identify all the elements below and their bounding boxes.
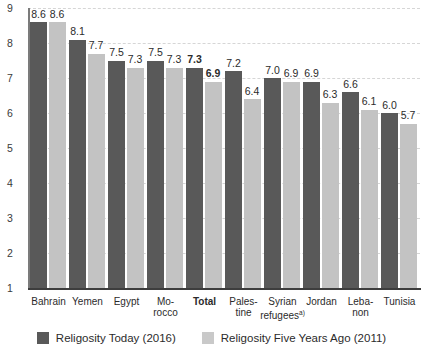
- bar-value-label: 6.4: [245, 86, 260, 97]
- bar-group: 6.96.3: [302, 8, 341, 288]
- bar-past: [244, 99, 261, 288]
- y-axis-tick-label: 4: [0, 178, 20, 189]
- bar-value-label: 7.2: [226, 58, 241, 69]
- bar-value-label: 6.9: [206, 68, 221, 79]
- plot-area: 8.68.68.17.77.57.37.57.37.36.97.26.47.06…: [29, 8, 419, 288]
- bar-group: 6.05.7: [380, 8, 419, 288]
- bar-past: [127, 68, 144, 289]
- bar-group: 8.68.6: [29, 8, 68, 288]
- bar-today: [264, 78, 281, 288]
- bar-today: [225, 71, 242, 288]
- bar-value-label: 8.6: [31, 9, 46, 20]
- bar-value-label: 6.9: [284, 68, 299, 79]
- bar-group: 8.17.7: [68, 8, 107, 288]
- bar-value-label: 6.0: [382, 100, 397, 111]
- x-axis-category-line: rocco: [140, 307, 191, 318]
- legend-label: Religosity Today (2016): [56, 332, 176, 344]
- bar-today: [186, 68, 203, 289]
- bar-today: [30, 22, 47, 288]
- bar-value-label: 5.7: [401, 110, 416, 121]
- bar-value-label: 7.7: [89, 40, 104, 51]
- bar-value-label: 7.5: [148, 47, 163, 58]
- y-axis-tick-label: 6: [0, 108, 20, 119]
- chart-legend: Religosity Today (2016)Religosity Five Y…: [0, 332, 423, 344]
- bar-today: [108, 61, 125, 289]
- bar-past: [49, 22, 66, 288]
- bar-value-label: 6.6: [343, 79, 358, 90]
- bar-value-label: 7.3: [128, 54, 143, 65]
- legend-item[interactable]: Religosity Today (2016): [37, 332, 176, 344]
- bar-group: 6.66.1: [341, 8, 380, 288]
- bar-value-label: 6.1: [362, 96, 377, 107]
- y-axis-tick-label: 1: [0, 283, 20, 294]
- x-axis-category-line: refugeesa): [257, 307, 308, 321]
- bar-value-label: 8.1: [70, 26, 85, 37]
- bar-today: [303, 82, 320, 289]
- x-axis-category-line: Tunisia: [374, 296, 423, 307]
- legend-label: Religosity Five Years Ago (2011): [221, 332, 386, 344]
- bar-past: [205, 82, 222, 289]
- bar-value-label: 8.6: [50, 9, 65, 20]
- y-axis-tick-label: 7: [0, 73, 20, 84]
- bar-value-label: 6.3: [323, 89, 338, 100]
- y-axis-tick-label: 9: [0, 3, 20, 14]
- x-axis-line: [28, 288, 421, 290]
- y-axis-tick-label: 5: [0, 143, 20, 154]
- bar-today: [381, 113, 398, 288]
- bar-value-label: 7.3: [167, 54, 182, 65]
- bar-chart: 123456789 8.68.68.17.77.57.37.57.37.36.9…: [0, 0, 423, 353]
- x-axis-category-label: Tunisia: [374, 296, 423, 307]
- bar-group: 7.57.3: [107, 8, 146, 288]
- bar-today: [147, 61, 164, 289]
- x-axis-category-line: non: [335, 307, 386, 318]
- bar-value-label: 7.5: [109, 47, 124, 58]
- bar-group: 7.57.3: [146, 8, 185, 288]
- footnote-marker: a): [299, 309, 305, 316]
- y-axis-tick-label: 2: [0, 248, 20, 259]
- bar-group: 7.06.9: [263, 8, 302, 288]
- y-axis-tick-label: 3: [0, 213, 20, 224]
- bar-value-label: 7.0: [265, 65, 280, 76]
- bar-past: [361, 110, 378, 289]
- bar-value-label: 6.9: [304, 68, 319, 79]
- bar-past: [166, 68, 183, 289]
- bar-past: [88, 54, 105, 289]
- bar-past: [322, 103, 339, 289]
- bar-past: [283, 82, 300, 289]
- legend-swatch: [202, 332, 214, 344]
- y-axis-tick-label: 8: [0, 38, 20, 49]
- bar-today: [69, 40, 86, 289]
- bar-value-label: 7.3: [187, 54, 202, 65]
- bar-today: [342, 92, 359, 288]
- bar-group: 7.36.9: [185, 8, 224, 288]
- bar-group: 7.26.4: [224, 8, 263, 288]
- bar-past: [400, 124, 417, 289]
- legend-swatch: [37, 332, 49, 344]
- legend-item[interactable]: Religosity Five Years Ago (2011): [202, 332, 386, 344]
